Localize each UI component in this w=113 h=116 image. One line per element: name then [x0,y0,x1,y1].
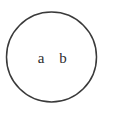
diagram-svg: a b [0,0,113,116]
element-label-a: a [38,50,45,66]
element-label-b: b [59,50,67,66]
figure-canvas: a b [0,0,113,116]
